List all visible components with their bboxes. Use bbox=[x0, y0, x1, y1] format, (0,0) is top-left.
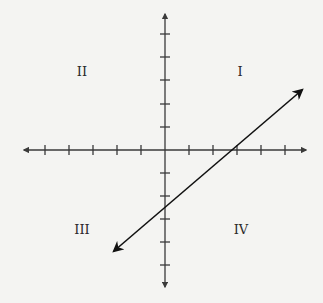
quadrant-label-iv: IV bbox=[234, 222, 249, 237]
graphed-line bbox=[114, 90, 302, 251]
quadrant-label-iii: III bbox=[74, 222, 89, 237]
quadrant-label-i: I bbox=[237, 64, 242, 79]
quadrant-label-ii: II bbox=[77, 64, 87, 79]
coordinate-plane: I II III IV bbox=[0, 0, 323, 303]
